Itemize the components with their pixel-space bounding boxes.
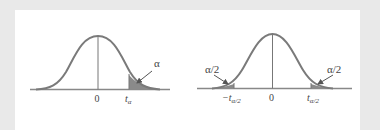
neg-t-alpha-half-label: −tα/2 xyxy=(222,92,241,105)
left-center-label: 0 xyxy=(95,93,100,104)
right-alpha-half-arrow-icon xyxy=(318,75,333,84)
left-alpha-arrow-icon xyxy=(137,71,152,83)
left-area-label: α xyxy=(154,57,160,69)
neg-t-alpha-half-label-base: −t xyxy=(222,92,232,103)
left-critical-label-sub: α xyxy=(128,98,132,106)
t-alpha-half-label-sub: α/2 xyxy=(310,97,320,105)
t-alpha-half-label: tα/2 xyxy=(307,92,319,105)
right-center-label: 0 xyxy=(269,92,274,103)
left-alpha-half-arrow-icon xyxy=(214,75,228,84)
right-tail-area-label: α/2 xyxy=(327,63,341,75)
left-critical-label: tα xyxy=(125,93,132,106)
t-distribution-figure: α 0 tα α/2 α/2 0 −tα/2 tα/2 xyxy=(0,0,380,130)
neg-t-alpha-half-label-sub: α/2 xyxy=(232,97,242,105)
left-tail-area-label: α/2 xyxy=(205,63,219,75)
right-diagram: α/2 α/2 0 −tα/2 tα/2 xyxy=(197,34,352,105)
left-diagram: α 0 tα xyxy=(30,36,170,106)
